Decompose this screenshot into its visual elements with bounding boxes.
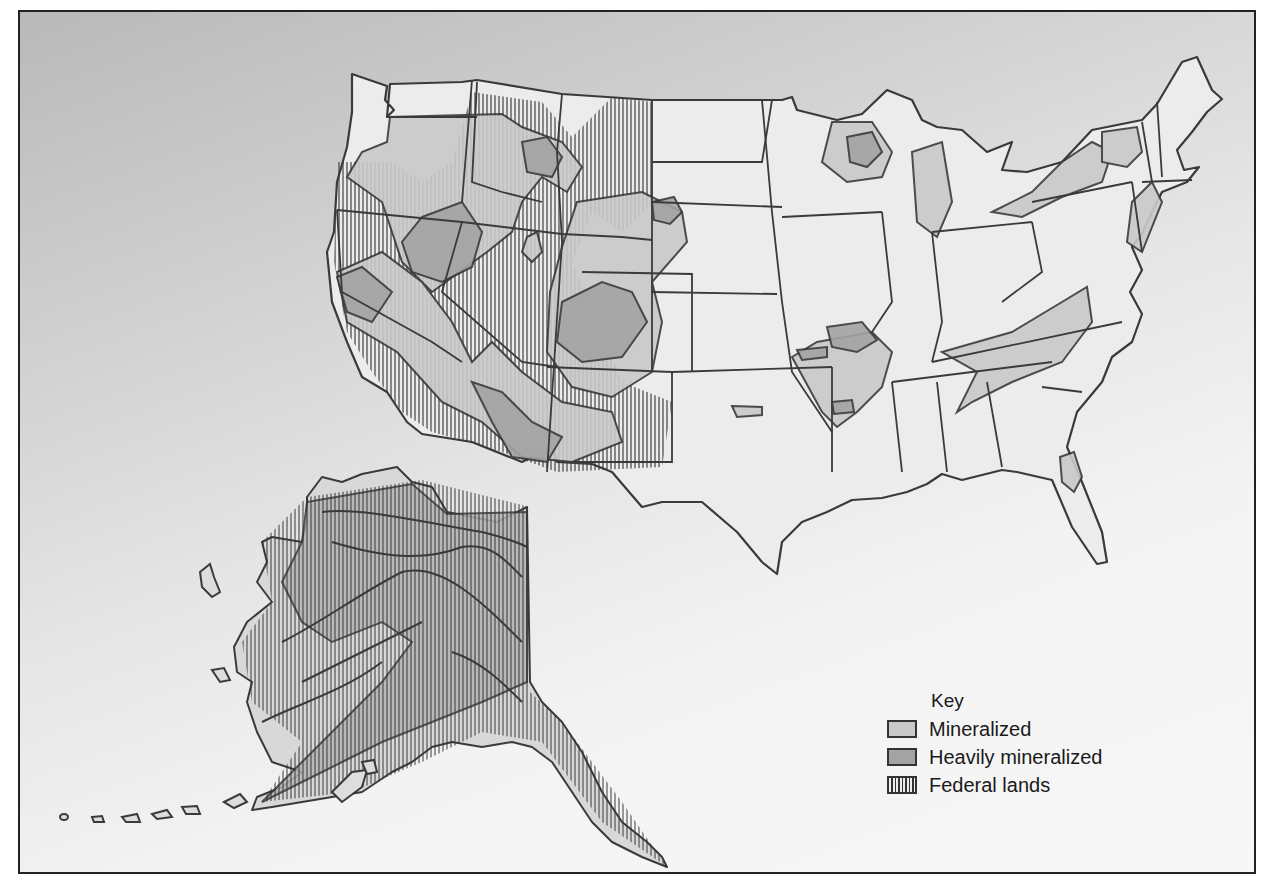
federal-lands-swatch-icon xyxy=(887,776,917,794)
legend-label: Mineralized xyxy=(929,718,1031,741)
legend-label: Federal lands xyxy=(929,774,1050,797)
map-frame: Key Mineralized Heavily mineralized Fede… xyxy=(18,10,1256,874)
heavily-mineralized-swatch-icon xyxy=(887,748,917,766)
map-legend: Key Mineralized Heavily mineralized Fede… xyxy=(887,690,1102,800)
mineralized-swatch-icon xyxy=(887,720,917,738)
alaska xyxy=(60,467,667,867)
legend-item-heavily-mineralized: Heavily mineralized xyxy=(887,744,1102,770)
legend-label: Heavily mineralized xyxy=(929,746,1102,769)
legend-item-federal-lands: Federal lands xyxy=(887,772,1102,798)
legend-item-mineralized: Mineralized xyxy=(887,716,1102,742)
legend-title: Key xyxy=(931,690,1102,712)
